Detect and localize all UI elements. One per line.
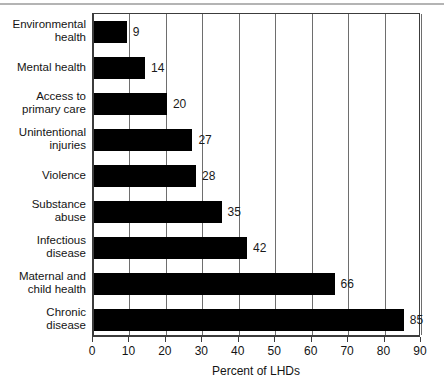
category-label-line: primary care [22,103,86,115]
x-tick-label-30: 30 [186,344,216,358]
bar-band: 9 [94,14,419,50]
bar [94,21,127,43]
bar-band: 85 [94,302,419,338]
bar-value-label: 27 [192,129,211,151]
category-label-line: Substance [32,198,86,210]
category-label: Chronicdisease [0,306,86,332]
bar-value-label: 42 [247,237,266,259]
x-tick-mark-50 [274,337,275,342]
bar-value-label: 85 [404,309,423,331]
category-label-line: Access to [36,90,86,102]
category-label-line: Chronic [46,306,86,318]
bar-band: 28 [94,158,419,194]
x-tick-mark-30 [201,337,202,342]
category-label-line: Environmental [12,18,86,30]
bar [94,201,222,223]
plot-area: 91420272835426685 [92,13,420,337]
category-label-line: abuse [55,211,86,223]
bar-value-label: 35 [222,201,241,223]
bar-band: 27 [94,122,419,158]
category-label: Unintentionalinjuries [0,126,86,152]
x-tick-label-80: 80 [369,344,399,358]
category-label-line: Infectious [37,234,86,246]
x-tick-label-60: 60 [296,344,326,358]
category-label-line: Mental health [17,61,86,73]
gridline-90 [421,14,422,335]
x-tick-label-10: 10 [113,344,143,358]
bar-value-label: 28 [196,165,215,187]
x-tick-label-50: 50 [259,344,289,358]
category-label: Access toprimary care [0,90,86,116]
bar [94,93,167,115]
category-label-line: Violence [42,169,86,181]
category-label: Mental health [0,61,86,74]
category-label: Maternal andchild health [0,270,86,296]
bar-value-label: 66 [335,273,354,295]
x-tick-mark-80 [384,337,385,342]
category-label: Substanceabuse [0,198,86,224]
x-tick-mark-10 [128,337,129,342]
bar-value-label: 14 [145,57,164,79]
bar [94,237,247,259]
category-label-line: child health [28,283,86,295]
category-label: Infectiousdisease [0,234,86,260]
bar-chart-figure: EnvironmentalhealthMental healthAccess t… [0,0,444,388]
x-tick-label-90: 90 [405,344,435,358]
x-tick-label-0: 0 [77,344,107,358]
bar [94,129,192,151]
bar-value-label: 9 [127,21,140,43]
bar-value-label: 20 [167,93,186,115]
category-label-line: injuries [50,139,86,151]
category-label: Violence [0,169,86,182]
bar-band: 14 [94,50,419,86]
x-tick-mark-90 [420,337,421,342]
category-label-line: health [55,31,86,43]
x-axis: 0102030405060708090 [92,337,420,367]
x-axis-title: Percent of LHDs [92,364,420,378]
bar-band: 66 [94,266,419,302]
x-tick-mark-70 [347,337,348,342]
category-label-line: Unintentional [19,126,86,138]
x-tick-label-40: 40 [223,344,253,358]
x-tick-mark-20 [165,337,166,342]
x-tick-mark-0 [92,337,93,342]
bar-band: 35 [94,194,419,230]
category-label-line: disease [46,319,86,331]
bar-band: 42 [94,230,419,266]
category-axis-labels: EnvironmentalhealthMental healthAccess t… [0,13,86,337]
category-label-line: disease [46,247,86,259]
category-label: Environmentalhealth [0,18,86,44]
x-tick-label-70: 70 [332,344,362,358]
scan-artifact-line [0,3,444,5]
bar [94,273,335,295]
x-tick-label-20: 20 [150,344,180,358]
bar-band: 20 [94,86,419,122]
bar [94,165,196,187]
bar [94,309,404,331]
bar [94,57,145,79]
x-tick-mark-40 [238,337,239,342]
x-tick-mark-60 [311,337,312,342]
category-label-line: Maternal and [19,270,86,282]
